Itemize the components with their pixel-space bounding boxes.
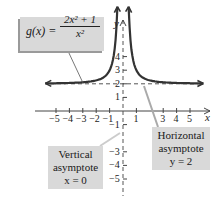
leader-lines xyxy=(68,51,158,146)
x-tick-label: −2 xyxy=(89,114,100,124)
y-tick-label: −5 xyxy=(109,174,120,184)
formula-denominator: x² xyxy=(60,27,100,40)
y-tick-label: −3 xyxy=(109,147,120,157)
y-tick-label: −4 xyxy=(109,160,120,170)
horizontal-asymptote-line2: asymptote xyxy=(152,142,210,155)
x-tick-label: 5 xyxy=(187,114,192,124)
y-tick-label: 3 xyxy=(115,65,120,75)
formula-lhs: g(x) = xyxy=(26,24,56,39)
vertical-asymptote-label: Vertical asymptote x = 0 xyxy=(48,146,103,189)
y-tick-label: −1 xyxy=(109,120,120,130)
formula-numerator: 2x² + 1 xyxy=(60,13,100,27)
x-tick-label: −3 xyxy=(76,114,87,124)
formula-fraction: 2x² + 1 x² xyxy=(60,13,100,40)
y-tick-label: 4 xyxy=(115,52,120,62)
x-tick-label: 3 xyxy=(160,114,165,124)
horizontal-asymptote-label: Horizontal asymptote y = 2 xyxy=(152,127,210,170)
vertical-asymptote-line1: Vertical xyxy=(48,148,103,161)
horizontal-asymptote-line1: Horizontal xyxy=(152,129,210,142)
y-tick-label: 2 xyxy=(115,79,120,89)
x-tick-label: 4 xyxy=(174,114,179,124)
vertical-asymptote-equation: x = 0 xyxy=(48,174,103,187)
vertical-asymptote-line2: asymptote xyxy=(48,161,103,174)
x-tick-label: 1 xyxy=(133,114,138,124)
y-axis-label: y xyxy=(114,18,119,28)
x-tick-label: −5 xyxy=(49,114,60,124)
y-tick-label: 1 xyxy=(115,92,120,102)
x-axis-label: x xyxy=(205,112,210,122)
function-label-box: g(x) = 2x² + 1 x² xyxy=(20,17,104,51)
x-tick-label: −4 xyxy=(62,114,73,124)
horizontal-asymptote-equation: y = 2 xyxy=(152,155,210,168)
